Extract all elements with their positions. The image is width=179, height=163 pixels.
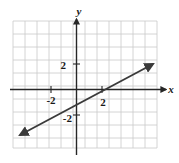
graph-canvas: 2 -2 -2 2 y x: [0, 0, 179, 163]
x-axis-name: x: [167, 83, 174, 95]
y-axis-label-negative-2: -2: [63, 112, 73, 124]
coordinate-plane-figure: 2 -2 -2 2 y x: [0, 0, 179, 163]
x-axis-label-positive-2: 2: [100, 96, 106, 108]
y-axis-label-positive-2: 2: [61, 59, 67, 71]
x-axis-label-negative-2: -2: [46, 94, 56, 106]
y-axis-name: y: [75, 5, 82, 17]
